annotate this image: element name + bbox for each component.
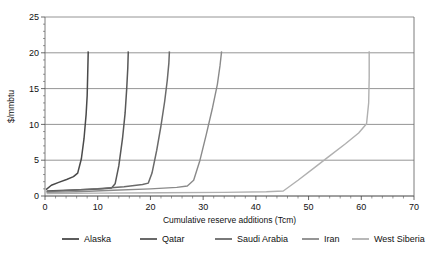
legend-label-saudi-arabia: Saudi Arabia bbox=[237, 234, 288, 244]
x-tick-label: 70 bbox=[409, 202, 419, 212]
legend-label-qatar: Qatar bbox=[162, 234, 185, 244]
y-tick-label: 25 bbox=[29, 12, 39, 22]
supply-cost-curve-chart: 0510152025010203040506070Cumulative rese… bbox=[0, 0, 432, 254]
legend-label-iran: Iran bbox=[324, 234, 340, 244]
x-axis-title: Cumulative reserve additions (Tcm) bbox=[163, 215, 296, 225]
x-tick-label: 50 bbox=[304, 202, 314, 212]
chart-container: 0510152025010203040506070Cumulative rese… bbox=[0, 0, 432, 254]
x-tick-label: 20 bbox=[145, 202, 155, 212]
x-tick-label: 0 bbox=[42, 202, 47, 212]
x-tick-label: 40 bbox=[251, 202, 261, 212]
series-line-saudi-arabia bbox=[47, 51, 170, 191]
series-line-iran bbox=[47, 51, 222, 192]
x-tick-label: 30 bbox=[198, 202, 208, 212]
x-tick-label: 60 bbox=[356, 202, 366, 212]
legend-label-west-siberia: West Siberia bbox=[374, 234, 425, 244]
series-line-west-siberia bbox=[47, 51, 370, 193]
x-tick-label: 10 bbox=[93, 202, 103, 212]
series-line-alaska bbox=[46, 51, 88, 189]
y-tick-label: 20 bbox=[29, 48, 39, 58]
y-axis-title: $/mmbtu bbox=[6, 90, 16, 123]
y-tick-label: 10 bbox=[29, 120, 39, 130]
y-tick-label: 0 bbox=[34, 191, 39, 201]
y-tick-label: 15 bbox=[29, 84, 39, 94]
y-tick-label: 5 bbox=[34, 155, 39, 165]
legend-label-alaska: Alaska bbox=[84, 234, 111, 244]
